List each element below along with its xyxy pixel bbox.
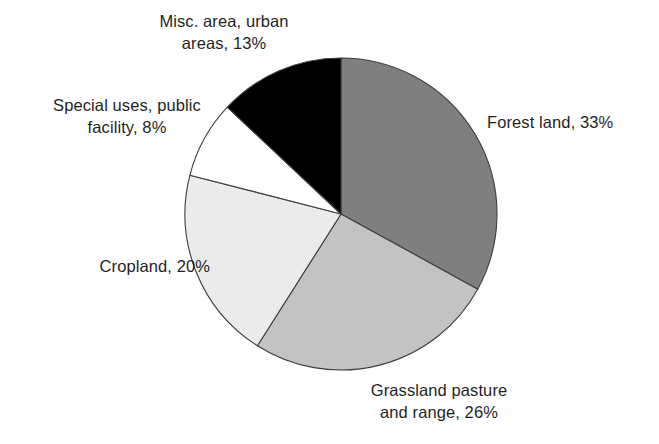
pie-label-cropland: Cropland, 20% <box>48 256 210 278</box>
pie-chart-svg <box>0 0 659 444</box>
pie-label-special-uses-public-facility: Special uses, public facility, 8% <box>18 95 236 139</box>
pie-label-forest-land: Forest land, 33% <box>487 112 659 134</box>
pie-label-misc-area-urban-areas: Misc. area, urban areas, 13% <box>118 11 330 55</box>
pie-label-grassland-pasture-and-range: Grassland pasture and range, 26% <box>330 380 548 424</box>
pie-chart: Misc. area, urban areas, 13% Special use… <box>0 0 659 444</box>
